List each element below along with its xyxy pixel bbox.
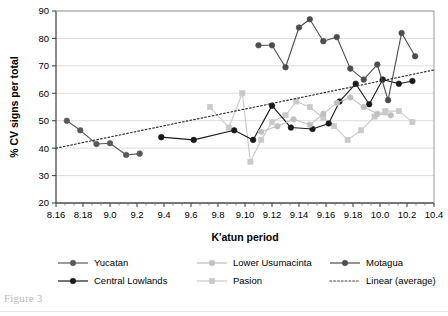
data-point	[366, 101, 372, 107]
x-tick-label: 9.6	[184, 209, 197, 220]
x-tick-label: 8.18	[74, 209, 93, 220]
data-point	[256, 42, 262, 48]
y-tick-label: 50	[38, 115, 49, 126]
legend-item-pasion[interactable]: Pasion	[197, 275, 262, 286]
data-point	[283, 64, 289, 70]
data-point	[248, 159, 253, 164]
data-point	[64, 118, 70, 124]
data-point	[209, 260, 215, 266]
data-point	[375, 111, 381, 117]
data-point	[348, 95, 354, 101]
y-axis-title: % CV signs per total	[8, 56, 20, 158]
data-point	[269, 119, 274, 124]
x-tick-label: 9.4	[157, 209, 170, 220]
legend-item-label: Motagua	[366, 257, 404, 268]
data-point	[191, 137, 197, 143]
data-point	[137, 151, 143, 157]
legend-item-lower-usumacinta[interactable]: Lower Usumacinta	[197, 257, 312, 268]
data-point	[334, 34, 340, 40]
x-tick-label: 8.16	[47, 209, 66, 220]
legend-item-label: Pasion	[233, 275, 262, 286]
data-point	[396, 109, 401, 114]
caption-divider	[0, 311, 448, 312]
data-point	[348, 66, 354, 72]
x-tick-label: 9.14	[290, 209, 309, 220]
data-point	[107, 140, 113, 146]
data-point	[250, 137, 256, 143]
data-point	[396, 81, 402, 87]
data-point	[296, 25, 302, 31]
cv-signs-per-katun-chart: 20304050607080908.168.189.09.29.49.69.89…	[0, 0, 448, 316]
data-point	[94, 141, 100, 147]
data-point	[159, 134, 165, 140]
figure-3-container: 20304050607080908.168.189.09.29.49.69.89…	[0, 0, 448, 316]
x-axis-ticks: 8.168.189.09.29.49.69.89.109.129.149.169…	[47, 203, 444, 220]
legend-item-central-lowlands[interactable]: Central Lowlands	[58, 275, 168, 286]
data-point	[332, 124, 337, 129]
x-tick-label: 9.12	[263, 209, 282, 220]
legend-item-motagua[interactable]: Motagua	[330, 257, 404, 268]
data-point	[361, 104, 367, 110]
data-point	[385, 97, 391, 103]
data-point	[70, 278, 76, 284]
data-point	[70, 260, 76, 266]
y-tick-label: 20	[38, 197, 49, 208]
y-tick-label: 40	[38, 143, 49, 154]
y-tick-label: 90	[38, 5, 49, 16]
legend-item-linear-average-[interactable]: Linear (average)	[330, 275, 436, 286]
x-tick-label: 10.2	[398, 209, 417, 220]
x-tick-label: 9.8	[211, 209, 224, 220]
legend-item-label: Lower Usumacinta	[233, 257, 312, 268]
data-point	[326, 121, 332, 127]
data-point	[283, 113, 288, 118]
data-point	[383, 109, 388, 114]
data-point	[226, 125, 231, 130]
data-point	[259, 137, 264, 142]
data-point	[294, 99, 299, 104]
data-point	[291, 117, 297, 123]
data-point	[240, 91, 245, 96]
data-point	[342, 260, 348, 266]
y-tick-label: 30	[38, 170, 49, 181]
x-axis-title: K'atun period	[211, 231, 278, 243]
data-point	[410, 78, 416, 84]
data-point	[375, 62, 381, 68]
legend-item-label: Yucatan	[94, 257, 128, 268]
x-tick-label: 10.0	[371, 209, 390, 220]
figure-caption: Figure 3	[4, 292, 43, 304]
x-tick-label: 9.16	[317, 209, 336, 220]
chart-legend: YucatanCentral LowlandsLower UsumacintaP…	[58, 257, 436, 286]
legend-item-yucatan[interactable]: Yucatan	[58, 257, 128, 268]
y-tick-label: 70	[38, 60, 49, 71]
y-axis-ticks: 2030405060708090	[38, 5, 56, 208]
data-point	[334, 100, 340, 106]
data-point	[307, 16, 313, 22]
data-point	[258, 129, 264, 135]
data-point	[307, 122, 313, 128]
data-point	[231, 128, 237, 134]
data-point	[321, 111, 327, 117]
plot-area-background	[56, 11, 434, 203]
y-tick-label: 60	[38, 88, 49, 99]
y-tick-label: 80	[38, 33, 49, 44]
data-point	[399, 30, 405, 36]
x-tick-label: 9.0	[103, 209, 116, 220]
x-tick-label: 9.18	[344, 209, 363, 220]
data-point	[269, 42, 275, 48]
legend-item-label: Linear (average)	[366, 275, 436, 286]
legend-item-label: Central Lowlands	[94, 275, 168, 286]
data-point	[209, 278, 214, 283]
data-point	[275, 123, 281, 129]
x-tick-label: 9.10	[236, 209, 255, 220]
x-tick-label: 9.2	[130, 209, 143, 220]
data-point	[361, 77, 367, 83]
data-point	[307, 104, 312, 109]
data-point	[410, 119, 415, 124]
data-point	[78, 128, 84, 134]
data-point	[359, 128, 364, 133]
data-point	[288, 125, 294, 131]
x-tick-label: 10.4	[425, 209, 444, 220]
data-point	[388, 112, 394, 118]
data-point	[207, 104, 212, 109]
data-point	[321, 38, 327, 44]
